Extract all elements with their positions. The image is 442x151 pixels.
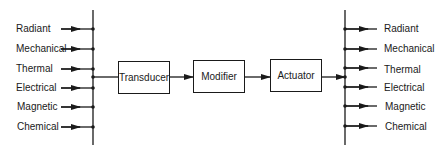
input-label-radiant: Radiant <box>16 23 50 35</box>
input-label-chemical: Chemical <box>17 121 59 133</box>
transducer-block: Transducer <box>118 61 170 94</box>
output-label-chemical: Chemical <box>385 121 427 133</box>
modifier-block: Modifier <box>193 60 245 93</box>
output-label-magnetic: Magnetic <box>385 101 426 113</box>
output-label-electrical: Electrical <box>384 82 425 94</box>
actuator-block: Actuator <box>270 59 322 92</box>
input-label-magnetic: Magnetic <box>17 101 58 113</box>
input-label-electrical: Electrical <box>16 82 57 94</box>
output-label-thermal: Thermal <box>384 64 421 76</box>
input-label-mechanical: Mechanical <box>16 43 67 55</box>
output-label-radiant: Radiant <box>384 23 418 35</box>
input-label-thermal: Thermal <box>16 63 53 75</box>
output-label-mechanical: Mechanical <box>384 43 435 55</box>
